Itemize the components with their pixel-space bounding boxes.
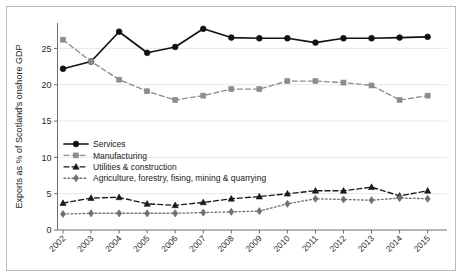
data-point-circle bbox=[228, 35, 234, 41]
series-manufacturing bbox=[61, 37, 431, 102]
data-point-diamond bbox=[425, 195, 430, 202]
data-point-diamond bbox=[229, 208, 234, 215]
y-axis-title: Exports as % of Scotland's onshore GDP bbox=[14, 45, 24, 209]
y-tick-label-0: 0 bbox=[46, 225, 51, 235]
data-point-diamond bbox=[341, 196, 346, 203]
x-tick-label-2003: 2003 bbox=[75, 233, 96, 254]
data-point-square bbox=[397, 97, 402, 102]
data-point-square bbox=[369, 83, 374, 88]
series-utilities-construction bbox=[60, 184, 431, 208]
data-point-diamond bbox=[173, 210, 178, 217]
data-point-diamond bbox=[313, 195, 318, 202]
data-point-circle bbox=[116, 29, 122, 35]
data-point-square bbox=[425, 93, 430, 98]
y-tick-label-10: 10 bbox=[41, 153, 51, 163]
x-tick-label-2012: 2012 bbox=[327, 233, 348, 254]
data-point-square bbox=[201, 93, 206, 98]
legend-label-1: Services bbox=[93, 139, 126, 149]
legend: ServicesManufacturingUtilities & constru… bbox=[64, 139, 266, 183]
x-tick-label-2015: 2015 bbox=[412, 233, 433, 254]
legend-item-1[interactable]: Services bbox=[64, 139, 126, 149]
x-tick-label-2009: 2009 bbox=[243, 233, 264, 254]
data-point-diamond bbox=[145, 210, 150, 217]
x-tick-label-2011: 2011 bbox=[300, 233, 320, 253]
data-point-square bbox=[89, 59, 94, 64]
data-point-diamond bbox=[369, 197, 374, 204]
legend-label-4: Agriculture, forestry, fising, mining & … bbox=[93, 173, 266, 183]
data-point-diamond bbox=[117, 210, 122, 217]
x-tick-label-2002: 2002 bbox=[47, 233, 68, 254]
data-point-triangle bbox=[88, 195, 94, 201]
x-tick-label-2005: 2005 bbox=[131, 233, 152, 254]
data-point-circle bbox=[172, 44, 178, 50]
data-point-circle bbox=[256, 35, 262, 41]
data-point-square bbox=[117, 77, 122, 82]
y-tick-label-5: 5 bbox=[46, 189, 51, 199]
data-point-circle bbox=[60, 66, 66, 72]
data-point-square bbox=[313, 79, 318, 84]
legend-label-3: Utilities & construction bbox=[93, 162, 177, 172]
data-point-square bbox=[173, 97, 178, 102]
data-point-square bbox=[74, 153, 79, 158]
data-point-circle bbox=[397, 35, 403, 41]
data-point-diamond bbox=[285, 200, 290, 207]
x-tick-label-2013: 2013 bbox=[356, 233, 377, 254]
data-point-triangle bbox=[116, 194, 122, 200]
plot-area: 0510152025Exports as % of Scotland's ons… bbox=[0, 0, 462, 277]
data-point-triangle bbox=[425, 187, 431, 193]
data-point-circle bbox=[200, 26, 206, 32]
data-point-diamond bbox=[257, 208, 262, 215]
y-tick-label-25: 25 bbox=[41, 44, 51, 54]
data-point-circle bbox=[73, 141, 79, 147]
x-tick-label-2010: 2010 bbox=[271, 233, 292, 254]
data-point-square bbox=[145, 89, 150, 94]
x-tick-label-2004: 2004 bbox=[103, 233, 124, 254]
x-tick-label-2014: 2014 bbox=[384, 233, 405, 254]
data-point-circle bbox=[285, 35, 291, 41]
x-tick-label-2008: 2008 bbox=[215, 233, 236, 254]
data-point-square bbox=[257, 87, 262, 92]
chart-figure: 0510152025Exports as % of Scotland's ons… bbox=[0, 0, 462, 277]
data-point-square bbox=[341, 80, 346, 85]
data-point-circle bbox=[313, 40, 319, 46]
line-chart: 0510152025Exports as % of Scotland's ons… bbox=[0, 0, 462, 277]
data-point-circle bbox=[369, 35, 375, 41]
y-tick-label-20: 20 bbox=[41, 80, 51, 90]
data-point-triangle bbox=[368, 184, 374, 190]
legend-item-4[interactable]: Agriculture, forestry, fising, mining & … bbox=[64, 173, 266, 183]
data-point-diamond bbox=[60, 210, 65, 217]
data-point-circle bbox=[341, 35, 347, 41]
data-point-square bbox=[61, 37, 66, 42]
legend-label-2: Manufacturing bbox=[93, 151, 147, 161]
y-tick-label-15: 15 bbox=[41, 116, 51, 126]
data-point-diamond bbox=[73, 175, 78, 182]
x-tick-label-2007: 2007 bbox=[187, 233, 208, 254]
legend-item-2[interactable]: Manufacturing bbox=[64, 151, 147, 161]
data-point-diamond bbox=[88, 210, 93, 217]
data-point-circle bbox=[425, 34, 431, 40]
data-point-square bbox=[229, 87, 234, 92]
data-point-square bbox=[285, 79, 290, 84]
legend-item-3[interactable]: Utilities & construction bbox=[64, 162, 177, 172]
data-point-diamond bbox=[201, 209, 206, 216]
data-point-circle bbox=[144, 50, 150, 56]
x-tick-label-2006: 2006 bbox=[159, 233, 180, 254]
